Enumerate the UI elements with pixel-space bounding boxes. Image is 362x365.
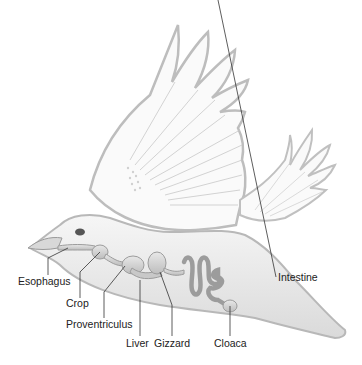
label-esophagus: Esophagus: [18, 276, 71, 287]
label-liver: Liver: [126, 338, 149, 349]
bird-illustration: [0, 0, 362, 365]
eye: [75, 229, 85, 236]
label-crop: Crop: [66, 298, 89, 309]
main-wing: [90, 25, 248, 230]
beak: [28, 237, 62, 249]
label-proventriculus: Proventriculus: [66, 319, 133, 330]
label-gizzard: Gizzard: [154, 338, 190, 349]
label-intestine: Intestine: [278, 272, 318, 283]
label-cloaca: Cloaca: [214, 338, 247, 349]
rear-wing: [240, 130, 335, 221]
